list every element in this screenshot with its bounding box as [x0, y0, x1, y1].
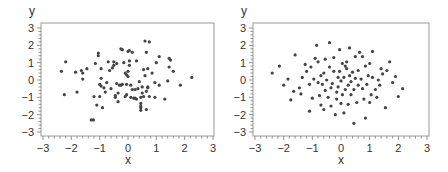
data-point	[305, 70, 308, 73]
data-point	[102, 86, 105, 89]
data-point	[100, 77, 103, 80]
data-point	[100, 67, 103, 70]
y-tick-label: −2	[21, 109, 34, 121]
data-point	[380, 67, 383, 70]
data-point	[338, 48, 341, 51]
data-point	[371, 76, 374, 79]
data-point	[401, 87, 404, 90]
data-point	[107, 60, 110, 63]
data-point	[344, 88, 347, 91]
data-point	[129, 96, 132, 99]
data-point	[166, 79, 169, 82]
data-point	[342, 111, 345, 114]
data-point	[370, 93, 373, 96]
y-axis: 3210−1−2−3	[233, 22, 253, 138]
data-point	[148, 95, 151, 98]
data-point	[311, 97, 314, 100]
data-point	[158, 84, 161, 87]
data-point	[135, 59, 138, 62]
data-point	[324, 89, 327, 92]
data-point	[304, 63, 307, 66]
data-point	[112, 64, 115, 67]
y-tick-label: 2	[28, 39, 34, 51]
x-tick-label: −2	[65, 142, 78, 154]
data-point	[374, 88, 377, 91]
data-point	[388, 60, 391, 63]
data-point	[168, 65, 171, 68]
data-point	[85, 67, 88, 70]
y-tick-label: −1	[21, 91, 34, 103]
data-point	[136, 87, 139, 90]
data-point	[375, 96, 378, 99]
data-points	[271, 41, 405, 125]
data-point	[360, 78, 363, 81]
y-axis-label: y	[241, 4, 247, 18]
data-point	[378, 84, 381, 87]
data-point	[128, 49, 131, 52]
data-point	[338, 70, 341, 73]
x-tick-label: −3	[37, 142, 50, 154]
data-point	[349, 80, 352, 83]
x-tick-label: −2	[277, 142, 290, 154]
data-point	[172, 70, 175, 73]
data-point	[351, 71, 354, 74]
x-axis: −3−2−10123	[249, 136, 430, 154]
data-point	[341, 62, 344, 65]
data-point	[135, 98, 138, 101]
data-point	[308, 110, 311, 113]
data-point	[129, 84, 132, 87]
data-point	[128, 64, 131, 67]
data-point	[148, 40, 151, 43]
data-point	[74, 71, 77, 74]
data-point	[112, 60, 115, 63]
data-point	[271, 72, 274, 75]
data-point	[341, 93, 344, 96]
data-point	[332, 70, 335, 73]
data-point	[337, 76, 340, 79]
data-point	[143, 39, 146, 42]
data-point	[339, 79, 342, 82]
data-point	[321, 83, 324, 86]
data-point	[319, 104, 322, 107]
data-point	[355, 101, 358, 104]
data-point	[115, 82, 118, 85]
data-point	[141, 85, 144, 88]
data-point	[97, 54, 100, 57]
data-point	[95, 104, 98, 107]
data-point	[337, 85, 340, 88]
y-tick-label: 1	[240, 57, 246, 69]
data-point	[92, 118, 95, 121]
x-axis-label: x	[125, 153, 131, 167]
x-tick-label: −3	[249, 142, 262, 154]
data-point	[286, 78, 289, 81]
data-point	[122, 61, 125, 64]
data-point	[367, 74, 370, 77]
y-axis: 3210−1−2−3	[21, 22, 41, 138]
data-point	[347, 84, 350, 87]
data-point	[349, 93, 352, 96]
data-point	[298, 86, 301, 89]
data-point	[364, 117, 367, 120]
data-point	[377, 78, 380, 81]
data-point	[309, 65, 312, 68]
data-point	[322, 72, 325, 75]
data-point	[357, 84, 360, 87]
x-tick-label: 2	[395, 142, 401, 154]
data-point	[138, 80, 141, 83]
data-point	[364, 65, 367, 68]
y-tick-label: 3	[240, 22, 246, 34]
data-point	[128, 59, 131, 62]
data-point	[358, 51, 361, 54]
data-point	[139, 96, 142, 99]
data-point	[354, 55, 357, 58]
data-point	[134, 88, 137, 91]
x-axis: −3−2−10123	[37, 136, 216, 154]
x-tick-label: 3	[424, 142, 430, 154]
x-tick-label: −1	[93, 142, 106, 154]
data-point	[365, 83, 368, 86]
data-point	[368, 62, 371, 65]
data-point	[114, 96, 117, 99]
data-points	[60, 39, 194, 121]
data-point	[60, 70, 63, 73]
data-point	[361, 55, 364, 58]
